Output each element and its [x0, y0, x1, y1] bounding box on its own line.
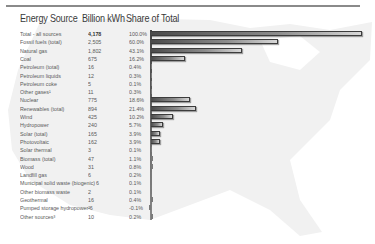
- share-value: 0.1%: [129, 80, 141, 88]
- bar: [151, 147, 152, 152]
- kwh-value: 16: [88, 196, 94, 204]
- bar: [151, 164, 153, 169]
- bar: [151, 180, 152, 185]
- source-label: Other biomass waste: [20, 188, 70, 196]
- kwh-value: 31: [88, 163, 94, 171]
- kwh-value: 10: [88, 213, 94, 221]
- kwh-value: 675: [88, 55, 97, 63]
- bar: [151, 89, 152, 94]
- source-label: Petroleum (total): [20, 63, 59, 71]
- source-label: Fossil fuels (total): [20, 38, 62, 46]
- kwh-value: -6: [88, 204, 93, 212]
- table-row: Total - all sources4,178100.0%: [0, 30, 375, 38]
- bar: [151, 97, 190, 102]
- bar: [151, 172, 152, 177]
- table-row: Biomass (total)471.1%: [0, 155, 375, 163]
- bar: [151, 122, 163, 127]
- kwh-value: 11: [88, 88, 94, 96]
- share-value: 10.2%: [129, 113, 144, 121]
- source-label: Coal: [20, 55, 31, 63]
- share-value: -0.1%: [129, 204, 143, 212]
- source-label: Landfill gas: [20, 171, 47, 179]
- kwh-value: 775: [88, 96, 97, 104]
- table-row: Hydropower2405.7%: [0, 121, 375, 129]
- table-row: Fossil fuels (total)2,50560.0%: [0, 38, 375, 46]
- bar: [151, 131, 160, 136]
- table-row: Coal67516.2%: [0, 55, 375, 63]
- bar: [151, 197, 153, 202]
- source-label: Pumped storage hydropower²: [20, 204, 90, 212]
- table-row: Other sources³100.2%: [0, 213, 375, 221]
- share-value: 0.1%: [129, 179, 141, 187]
- kwh-value: 240: [88, 121, 97, 129]
- source-label: Total - all sources: [20, 30, 61, 38]
- kwh-value: 16: [88, 63, 94, 71]
- bar: [151, 39, 278, 44]
- table-row: Nuclear77518.6%: [0, 96, 375, 104]
- share-value: 0.4%: [129, 196, 141, 204]
- kwh-value: 162: [88, 138, 97, 146]
- share-value: 43.1%: [129, 47, 144, 55]
- kwh-value: 3: [88, 146, 91, 154]
- bar: [151, 106, 196, 111]
- source-label: Natural gas: [20, 47, 47, 55]
- source-label: Renewables (total): [20, 105, 64, 113]
- share-value: 16.2%: [129, 55, 144, 63]
- source-label: Other sources³: [20, 213, 55, 221]
- table-row: Landfill gas60.2%: [0, 171, 375, 179]
- source-label: Hydropower: [20, 121, 49, 129]
- table-row: Petroleum coke50.1%: [0, 80, 375, 88]
- share-value: 0.2%: [129, 213, 141, 221]
- share-value: 0.1%: [129, 146, 141, 154]
- table-row: Other biomass waste20.1%: [0, 188, 375, 196]
- col-header-source: Energy Source: [20, 12, 77, 24]
- source-label: Solar (total): [20, 130, 48, 138]
- bar: [149, 205, 151, 210]
- share-value: 3.9%: [129, 130, 141, 138]
- kwh-value: 47: [88, 155, 94, 163]
- share-value: 0.8%: [129, 163, 141, 171]
- share-value: 0.1%: [129, 188, 141, 196]
- bar: [151, 73, 152, 78]
- kwh-value: 2,505: [88, 38, 101, 46]
- kwh-value: 6: [88, 171, 91, 179]
- kwh-value: 12: [88, 72, 94, 80]
- share-value: 0.2%: [129, 171, 141, 179]
- kwh-value: 6: [96, 179, 99, 187]
- source-label: Petroleum coke: [20, 80, 57, 88]
- source-label: Petroleum liquids: [20, 72, 61, 80]
- table-row: Geothermal160.4%: [0, 196, 375, 204]
- bar: [151, 48, 242, 53]
- bar: [151, 139, 160, 144]
- bar: [151, 64, 152, 69]
- table-row: Solar thermal30.1%: [0, 146, 375, 154]
- top-rule: [6, 5, 360, 7]
- table-row: Petroleum liquids120.3%: [0, 72, 375, 80]
- table-row: Petroleum (total)160.4%: [0, 63, 375, 71]
- table-row: Pumped storage hydropower²-6-0.1%: [0, 204, 375, 212]
- source-label: Municipal solid waste (biogenic): [20, 179, 95, 187]
- source-label: Other gases¹: [20, 88, 51, 96]
- col-header-kwh: Billion kWh: [82, 12, 125, 24]
- bar: [151, 214, 153, 219]
- table-row: Photovoltaic1623.9%: [0, 138, 375, 146]
- share-value: 0.3%: [129, 88, 141, 96]
- table-row: Solar (total)1653.9%: [0, 130, 375, 138]
- kwh-value: 4,178: [88, 30, 101, 38]
- table-row: Municipal solid waste (biogenic)60.1%: [0, 179, 375, 187]
- bar: [151, 56, 185, 61]
- kwh-value: 165: [88, 130, 97, 138]
- col-header-share: Share of Total: [126, 12, 179, 24]
- kwh-value: 425: [88, 113, 97, 121]
- kwh-value: 2: [88, 188, 91, 196]
- bar: [151, 156, 153, 161]
- share-value: 18.6%: [129, 96, 144, 104]
- share-value: 3.9%: [129, 138, 141, 146]
- share-value: 21.4%: [129, 105, 144, 113]
- kwh-value: 5: [88, 80, 91, 88]
- source-label: Wind: [20, 113, 32, 121]
- share-value: 0.4%: [129, 63, 141, 71]
- kwh-value: 894: [88, 105, 97, 113]
- source-label: Biomass (total): [20, 155, 55, 163]
- bar: [151, 189, 152, 194]
